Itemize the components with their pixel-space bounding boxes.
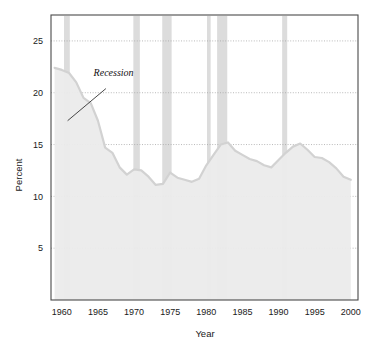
series-area-group bbox=[55, 68, 351, 300]
x-tick-label: 1985 bbox=[232, 307, 252, 317]
y-tick-label: 20 bbox=[33, 88, 43, 98]
y-axis-title: Percent bbox=[13, 158, 24, 191]
x-tick-label: 1975 bbox=[160, 307, 180, 317]
x-tick-label: 1960 bbox=[52, 307, 72, 317]
y-tick-label: 15 bbox=[33, 140, 43, 150]
y-tick-label: 25 bbox=[33, 36, 43, 46]
annotation-label-recession: Recession bbox=[93, 67, 134, 78]
x-tick-label: 1980 bbox=[196, 307, 216, 317]
x-axis-title: Year bbox=[195, 328, 214, 339]
chart-figure: 510152025 196019651970197519801985199019… bbox=[0, 0, 377, 348]
y-tick-label: 10 bbox=[33, 192, 43, 202]
x-axis-tick-labels: 196019651970197519801985199019952000 bbox=[52, 307, 361, 317]
y-tick-label: 5 bbox=[38, 243, 43, 253]
x-tick-label: 1970 bbox=[124, 307, 144, 317]
series-area-fill bbox=[55, 68, 351, 300]
percent-by-year-area-chart: 510152025 196019651970197519801985199019… bbox=[0, 0, 377, 348]
x-tick-label: 1990 bbox=[269, 307, 289, 317]
y-axis-tick-labels: 510152025 bbox=[33, 36, 43, 253]
x-tick-label: 2000 bbox=[341, 307, 361, 317]
x-tick-label: 1995 bbox=[305, 307, 325, 317]
x-tick-label: 1965 bbox=[88, 307, 108, 317]
